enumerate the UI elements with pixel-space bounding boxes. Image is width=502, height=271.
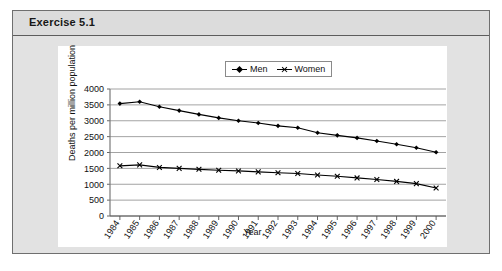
exercise-box: Exercise 5.1 Men Women 05001000150020002… (12, 10, 490, 254)
y-axis-title: Deaths per million population (67, 35, 77, 171)
y-tick-label: 500 (89, 195, 104, 205)
data-point-marker-men (177, 108, 182, 113)
y-tick-label: 2000 (84, 148, 104, 158)
data-point-marker-men (375, 139, 380, 144)
data-point-marker-men (236, 118, 241, 123)
y-tick-label: 3500 (84, 100, 104, 110)
data-point-marker-men (197, 112, 202, 117)
data-point-marker-men (394, 142, 399, 147)
data-point-marker-men (137, 99, 142, 104)
chart-panel: Men Women 050010001500200025003000350040… (58, 46, 447, 247)
screenshot-root: Exercise 5.1 Men Women 05001000150020002… (0, 0, 502, 271)
data-point-marker-men (315, 131, 320, 136)
exercise-header: Exercise 5.1 (13, 11, 489, 36)
data-point-marker-men (216, 116, 221, 121)
y-tick-label: 0 (99, 211, 104, 221)
y-tick-label: 1500 (84, 164, 104, 174)
y-tick-label: 2500 (84, 132, 104, 142)
line-chart-plot: 0500100015002000250030003500400019841985… (58, 46, 447, 247)
data-point-marker-men (256, 121, 261, 126)
exercise-title: Exercise 5.1 (29, 16, 95, 28)
y-tick-label: 1000 (84, 180, 104, 190)
data-point-marker-men (276, 124, 281, 129)
data-point-marker-men (414, 145, 419, 150)
x-axis-title: Year (58, 227, 447, 237)
y-tick-label: 3000 (84, 116, 104, 126)
data-point-marker-men (295, 125, 300, 130)
y-tick-label: 4000 (84, 84, 104, 94)
data-point-marker-men (434, 150, 439, 155)
